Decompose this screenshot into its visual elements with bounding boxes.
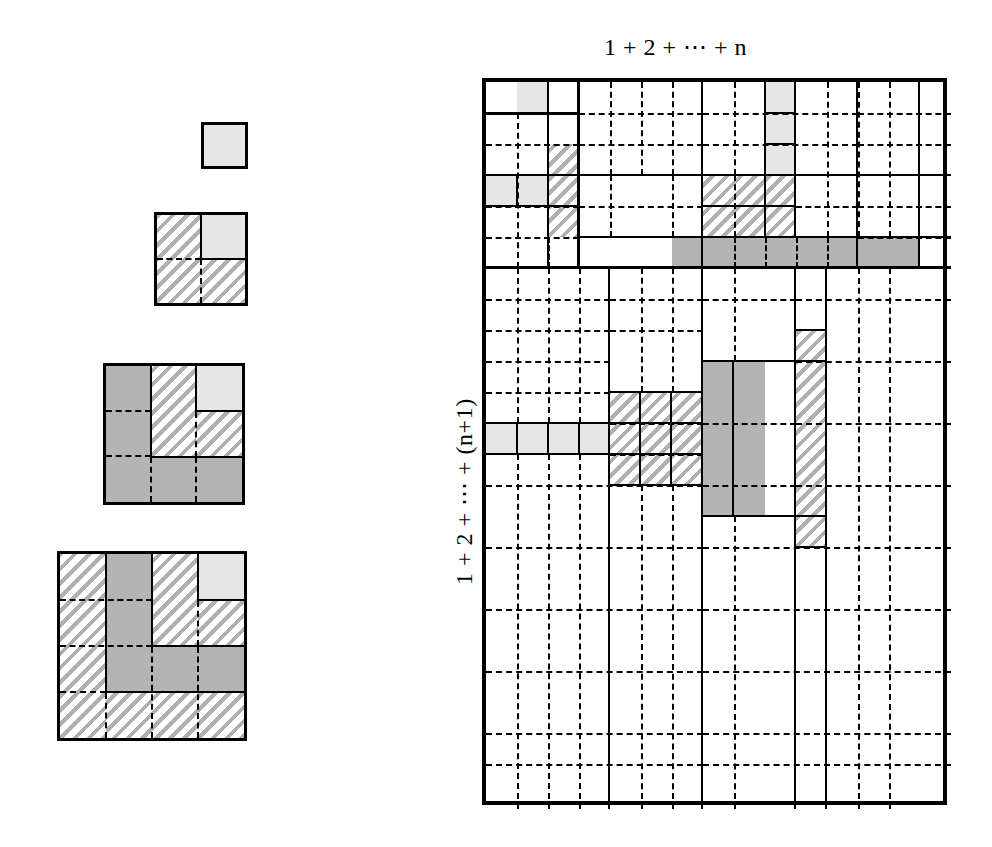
block-line <box>825 268 827 809</box>
cell-light <box>517 82 548 113</box>
unit-line <box>641 268 643 392</box>
cell-dark <box>703 361 765 516</box>
cell-light <box>196 366 242 411</box>
block-line <box>516 175 518 206</box>
unit-line <box>703 485 796 487</box>
unit-line <box>672 268 674 392</box>
cell-light <box>198 554 244 600</box>
unit-line <box>858 144 951 146</box>
diagram-canvas: 1 + 2 + ⋯ + n 1 + 2 + ⋯ + (n+1) <box>0 0 992 847</box>
unit-line <box>827 82 829 237</box>
unit-line <box>672 485 674 809</box>
block-line <box>703 515 827 517</box>
unit-line <box>486 144 579 146</box>
block-line <box>672 266 920 268</box>
unit-line <box>200 259 202 303</box>
unit-line <box>548 268 550 423</box>
grid-line <box>197 554 199 601</box>
main-grid <box>482 78 947 805</box>
grid-line <box>197 599 244 601</box>
unit-line <box>610 299 703 301</box>
unit-line <box>796 485 951 487</box>
grid-line <box>195 410 242 412</box>
cell-hatch <box>106 692 244 738</box>
unit-line <box>672 82 674 175</box>
cell-hatch <box>548 144 579 237</box>
unit-line <box>889 82 891 237</box>
block-line <box>547 423 549 454</box>
cell-light <box>204 125 245 166</box>
grid-line <box>150 366 152 458</box>
unit-line <box>796 423 951 425</box>
unit-line <box>195 457 197 502</box>
unit-line <box>858 268 860 809</box>
unit-line <box>703 764 951 766</box>
unit-line <box>703 547 951 549</box>
unit-line <box>60 599 152 601</box>
unit-line <box>610 175 612 237</box>
unit-line <box>858 206 951 208</box>
block-line <box>732 361 734 516</box>
top-axis-label: 1 + 2 + ⋯ + n <box>604 33 747 61</box>
cell-hatch <box>610 392 703 485</box>
grid-line <box>200 215 202 259</box>
block-line <box>486 174 579 176</box>
unit-line <box>703 671 951 673</box>
block-line <box>764 82 766 237</box>
unit-line <box>517 454 519 809</box>
block-line <box>670 392 672 485</box>
block-line <box>486 112 579 115</box>
small-figure-1 <box>201 122 248 169</box>
unit-line <box>641 485 643 809</box>
unit-line <box>672 175 674 237</box>
unit-line <box>796 237 798 268</box>
unit-line <box>734 268 736 361</box>
cell-hatch <box>151 366 196 457</box>
unit-line <box>579 454 581 809</box>
block-line <box>610 484 703 486</box>
side-axis-label: 1 + 2 + ⋯ + (n+1) <box>450 398 478 585</box>
cell-hatch <box>196 411 242 457</box>
unit-line <box>703 299 796 301</box>
grid-line <box>105 691 244 693</box>
block-line <box>579 174 703 176</box>
block-line <box>547 82 549 268</box>
unit-line <box>734 516 736 809</box>
block-line <box>701 268 703 809</box>
small-figure-2 <box>154 212 248 306</box>
unit-line <box>858 82 860 237</box>
cell-hatch <box>201 259 245 303</box>
block-line <box>608 268 610 809</box>
unit-line <box>105 693 107 738</box>
cell-dark <box>106 366 151 502</box>
block-line <box>794 268 796 809</box>
unit-line <box>157 258 201 260</box>
unit-line <box>197 647 199 738</box>
small-figure-3 <box>103 363 245 505</box>
unit-line <box>579 268 581 423</box>
unit-line <box>734 82 736 175</box>
unit-line <box>703 733 951 735</box>
block-line <box>794 175 796 237</box>
cell-dark <box>106 554 152 692</box>
cell-hatch <box>152 554 198 646</box>
unit-line <box>734 237 736 268</box>
unit-line <box>106 410 151 412</box>
block-line <box>639 392 641 485</box>
unit-line <box>517 268 519 423</box>
unit-line <box>610 330 703 332</box>
block-line <box>703 174 951 176</box>
unit-line <box>60 645 152 647</box>
block-line <box>516 423 518 454</box>
small-figure-4 <box>57 551 247 741</box>
cell-light <box>765 82 796 175</box>
unit-line <box>796 299 951 301</box>
block-line <box>796 546 827 548</box>
unit-line <box>548 454 550 809</box>
unit-line <box>889 268 891 809</box>
block-line <box>796 329 827 331</box>
block-line <box>765 112 796 114</box>
block-line <box>486 205 579 207</box>
unit-line <box>641 82 643 175</box>
block-line <box>703 360 827 362</box>
